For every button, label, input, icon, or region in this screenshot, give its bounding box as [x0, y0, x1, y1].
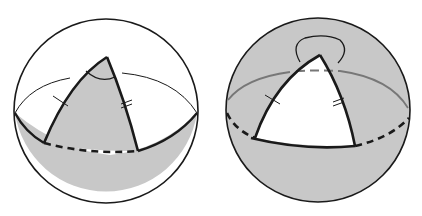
spherical-triangles-figure: Two spheres each showing a spherical tri… [0, 0, 422, 216]
left-sphere [14, 19, 198, 203]
left-back-equator-right [122, 73, 197, 113]
right-sphere [226, 18, 410, 202]
